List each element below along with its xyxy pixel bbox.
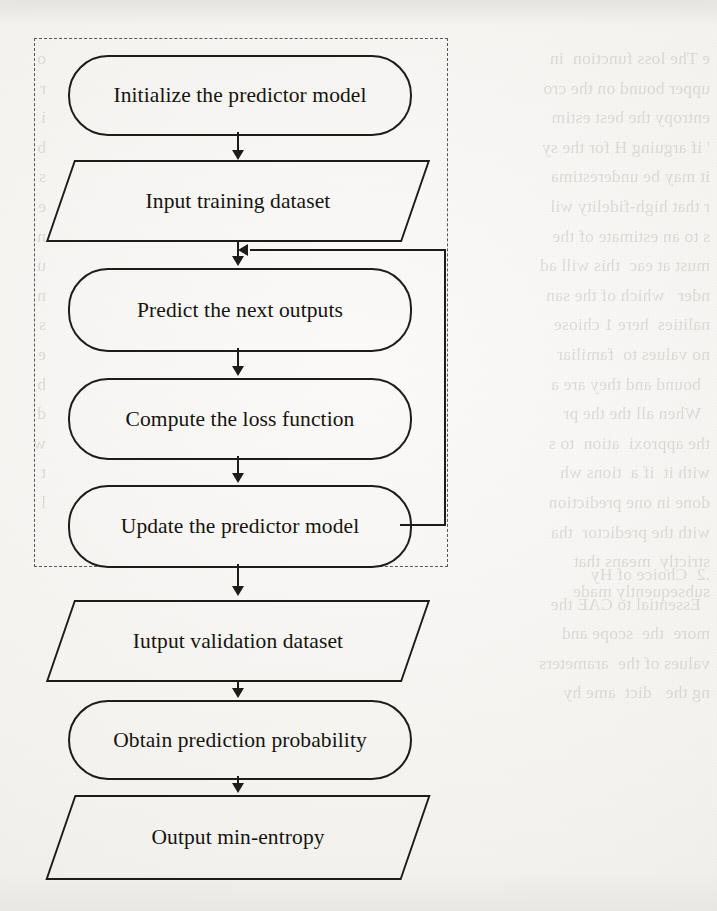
flow-node-label: Initialize the predictor model — [113, 83, 366, 108]
arrowhead-left-icon — [238, 244, 248, 256]
flow-node-label: Predict the next outputs — [137, 298, 343, 323]
connector-init-to-input-dataset — [237, 132, 239, 152]
feedback-loop-segment-top — [250, 249, 446, 251]
bleed-through-text-lower-right: .2 Choice of Hy Essential to CAE the mor… — [452, 560, 710, 708]
flow-node-label: Iutput validation dataset — [60, 629, 416, 654]
flow-node-output-min-entropy[interactable]: Output min-entropy — [60, 795, 416, 880]
scan-edge-top — [0, 0, 717, 26]
arrowhead-down-icon — [232, 586, 244, 596]
flow-node-compute-loss-function[interactable]: Compute the loss function — [68, 378, 412, 460]
arrowhead-down-icon — [232, 473, 244, 483]
flow-node-label: Input training dataset — [60, 189, 416, 214]
flow-node-label: Compute the loss function — [126, 407, 355, 432]
flow-node-obtain-prediction-probability[interactable]: Obtain prediction probability — [68, 700, 412, 780]
arrowhead-down-icon — [232, 688, 244, 698]
flow-node-update-predictor-model[interactable]: Update the predictor model — [68, 485, 412, 568]
flow-node-input-training-dataset[interactable]: Input training dataset — [60, 160, 416, 242]
flow-node-initialize-predictor-model[interactable]: Initialize the predictor model — [68, 55, 412, 136]
flow-node-label: Obtain prediction probability — [113, 728, 367, 753]
flow-node-predict-next-outputs[interactable]: Predict the next outputs — [68, 268, 412, 352]
arrowhead-down-icon — [232, 366, 244, 376]
flow-node-label: Update the predictor model — [121, 514, 359, 539]
feedback-loop-segment-right — [444, 250, 446, 526]
arrowhead-down-icon — [232, 783, 244, 793]
arrowhead-down-icon — [232, 150, 244, 160]
bleed-through-text-right: e The loss function in upper bound on th… — [452, 44, 710, 606]
flow-node-label: Output min-entropy — [60, 825, 416, 850]
feedback-loop-segment-bottom — [400, 524, 446, 526]
scanned-page: e The loss function in upper bound on th… — [0, 0, 717, 911]
arrowhead-down-icon — [232, 256, 244, 266]
flow-node-input-validation-dataset[interactable]: Iutput validation dataset — [60, 600, 416, 682]
